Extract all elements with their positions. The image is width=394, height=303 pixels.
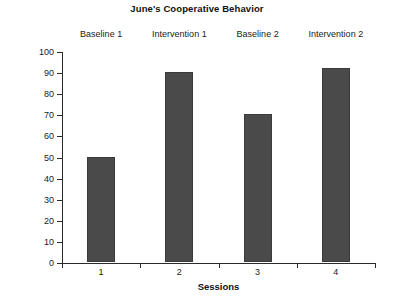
y-tick-label: 20 [44, 216, 54, 226]
phase-label: Baseline 2 [237, 29, 279, 39]
y-tick-label: 30 [44, 195, 54, 205]
y-tick-label: 10 [44, 237, 54, 247]
y-tick-mark [57, 179, 62, 180]
x-axis-title: Sessions [62, 281, 375, 292]
bar [87, 157, 115, 263]
y-tick-label: 100 [39, 47, 54, 57]
y-tick-label: 80 [44, 89, 54, 99]
phase-label: Intervention 1 [152, 29, 207, 39]
bar [322, 68, 350, 262]
bar [244, 114, 272, 262]
y-tick-mark [57, 242, 62, 243]
x-tick-mark [62, 263, 63, 268]
y-tick-mark [57, 158, 62, 159]
y-axis-line [62, 52, 63, 264]
x-tick-label: 4 [333, 267, 338, 277]
phase-label-row: Baseline 1Intervention 1Baseline 2Interv… [62, 29, 380, 43]
y-tick-label: 50 [44, 153, 54, 163]
chart-title: June's Cooperative Behavior [0, 3, 394, 14]
y-tick-label: 40 [44, 174, 54, 184]
phase-label: Baseline 1 [80, 29, 122, 39]
x-tick-mark [219, 263, 220, 268]
x-tick-mark [375, 263, 376, 268]
y-tick-mark [57, 115, 62, 116]
y-tick-label: 90 [44, 68, 54, 78]
y-tick-label: 0 [49, 258, 54, 268]
x-tick-label: 2 [177, 267, 182, 277]
y-tick-mark [57, 221, 62, 222]
y-tick-mark [57, 136, 62, 137]
y-tick-label: 70 [44, 110, 54, 120]
bar [165, 72, 193, 262]
phase-label: Intervention 2 [309, 29, 364, 39]
y-tick-mark [57, 73, 62, 74]
y-tick-label: 60 [44, 131, 54, 141]
y-tick-mark [57, 52, 62, 53]
x-tick-label: 3 [255, 267, 260, 277]
y-tick-mark [57, 200, 62, 201]
x-tick-mark [297, 263, 298, 268]
x-tick-mark [140, 263, 141, 268]
y-tick-mark [57, 94, 62, 95]
x-tick-label: 1 [99, 267, 104, 277]
plot-area: 0102030405060708090100 1234 [62, 52, 375, 263]
bar-chart-figure: June's Cooperative Behavior Baseline 1In… [0, 0, 394, 303]
